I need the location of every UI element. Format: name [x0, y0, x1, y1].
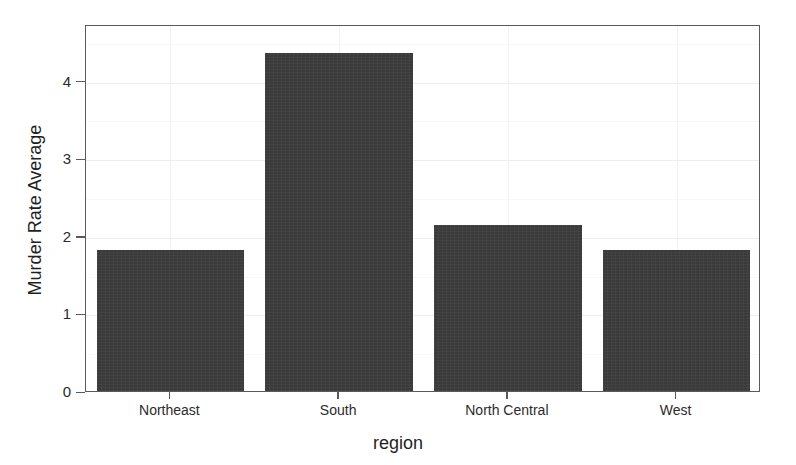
- plot-area: [85, 25, 760, 392]
- y-axis-tick-label: 4: [63, 73, 71, 91]
- bar[interactable]: [97, 250, 245, 391]
- y-axis-tick-mark: [76, 236, 85, 237]
- bar[interactable]: [603, 250, 751, 391]
- x-axis-tick-label: Northeast: [139, 401, 200, 419]
- x-axis-tick-mark: [506, 392, 507, 399]
- x-axis-tick-label: North Central: [465, 401, 548, 419]
- x-axis-tick-mark: [337, 392, 338, 399]
- bar[interactable]: [265, 53, 413, 391]
- gridline-horizontal-major: [86, 238, 759, 239]
- x-axis-title: region: [0, 432, 796, 454]
- x-axis-tick-label: West: [660, 401, 692, 419]
- y-axis-tick-mark: [76, 314, 85, 315]
- x-axis-tick-label: South: [320, 401, 357, 419]
- bar[interactable]: [434, 225, 582, 391]
- y-axis-tick-mark: [76, 159, 85, 160]
- x-axis-tick-mark: [675, 392, 676, 399]
- y-axis-tick-label: 1: [63, 305, 71, 323]
- y-axis-tick-label: 2: [63, 228, 71, 246]
- gridline-horizontal-major: [86, 83, 759, 84]
- y-axis-tick-label: 3: [63, 150, 71, 168]
- x-axis-ticks: NortheastSouthNorth CentralWest: [0, 392, 796, 432]
- gridline-horizontal-minor: [86, 121, 759, 122]
- gridline-horizontal-minor: [86, 199, 759, 200]
- gridline-horizontal-major: [86, 160, 759, 161]
- x-axis-tick-mark: [169, 392, 170, 399]
- bar-chart-figure: Murder Rate Average 43210 NortheastSouth…: [0, 0, 796, 465]
- y-axis-tick-mark: [76, 81, 85, 82]
- gridline-horizontal-minor: [86, 44, 759, 45]
